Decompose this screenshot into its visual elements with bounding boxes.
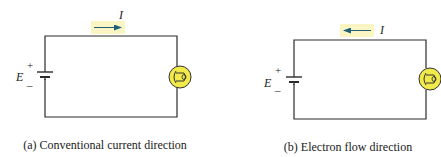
battery-icon: [286, 74, 302, 85]
circuit-diagrams: I + E – (a) Conventional current directi…: [0, 0, 441, 157]
panel-b-electron-flow: I + E – (b) Electron flow direction: [263, 23, 441, 154]
caption-b: (b) Electron flow direction: [284, 140, 412, 154]
plus-sign: +: [275, 64, 281, 76]
circuit-wire: [294, 84, 426, 119]
lamp-icon: [169, 66, 191, 88]
battery-icon: [37, 69, 53, 80]
plus-sign: +: [27, 59, 33, 71]
current-label: I: [379, 23, 385, 37]
panel-a-conventional-current: I + E – (a) Conventional current directi…: [15, 8, 191, 152]
minus-sign: –: [274, 84, 281, 96]
circuit-wire: [45, 36, 177, 69]
minus-sign: –: [26, 79, 33, 91]
current-label: I: [118, 8, 124, 22]
circuit-wire: [294, 40, 426, 74]
circuit-wire: [45, 79, 177, 117]
caption-a: (a) Conventional current direction: [23, 138, 187, 152]
lamp-icon: [419, 68, 441, 90]
source-label: E: [263, 76, 272, 90]
source-label: E: [15, 70, 24, 84]
